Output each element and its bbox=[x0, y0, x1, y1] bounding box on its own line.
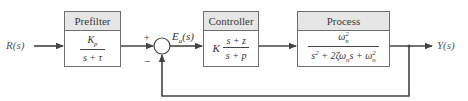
output-label: Y(s) bbox=[437, 40, 455, 51]
den-tail: s + ω bbox=[350, 51, 373, 62]
prefilter-denominator: s + τ bbox=[80, 49, 105, 63]
process-numerator: ω2n bbox=[335, 31, 352, 46]
prefilter-title: Prefilter bbox=[65, 12, 120, 31]
omega-sub: n bbox=[345, 38, 349, 45]
omega-symbol: ω bbox=[338, 32, 345, 43]
input-label: R(s) bbox=[6, 40, 24, 51]
error-symbol: E bbox=[172, 30, 179, 42]
controller-gain: K bbox=[213, 42, 220, 54]
process-denominator: s2 + 2ζωns + ω2n bbox=[308, 46, 378, 64]
process-title: Process bbox=[298, 12, 389, 31]
summing-junction bbox=[154, 38, 170, 54]
den-middle: + 2ζω bbox=[319, 51, 346, 62]
controller-numerator: s + z bbox=[223, 35, 249, 47]
den-tail-sub: n bbox=[372, 57, 376, 64]
controller-denominator: s + p bbox=[223, 47, 250, 61]
controller-block: Controller K s + z s + p bbox=[203, 11, 259, 67]
plus-sign: + bbox=[144, 33, 150, 43]
process-block: Process ω2n s2 + 2ζωns + ω2n bbox=[297, 11, 390, 67]
error-label: Ea(s) bbox=[172, 31, 194, 45]
process-transfer-function: ω2n s2 + 2ζωns + ω2n bbox=[298, 30, 389, 66]
kp-subscript: p bbox=[94, 40, 98, 48]
error-suffix: (s) bbox=[182, 30, 194, 42]
minus-sign: − bbox=[144, 56, 150, 67]
prefilter-numerator: Kp bbox=[84, 34, 100, 49]
controller-title: Controller bbox=[204, 12, 258, 31]
prefilter-block: Prefilter Kp s + τ bbox=[64, 11, 121, 67]
controller-transfer-function: K s + z s + p bbox=[204, 30, 258, 66]
prefilter-transfer-function: Kp s + τ bbox=[65, 30, 120, 66]
